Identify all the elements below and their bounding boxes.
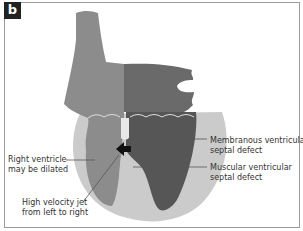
heart-diagram	[0, 0, 303, 231]
label-line: may be dilated	[8, 165, 68, 175]
label-muscular-defect: Muscular ventricular septal defect	[210, 163, 292, 182]
label-line: from left to right	[22, 208, 88, 218]
label-line: High velocity jet	[22, 198, 88, 208]
left-atrium	[124, 64, 194, 112]
membranous-defect	[121, 118, 129, 140]
label-membranous-defect: Membranous ventricular septal defect	[210, 136, 303, 155]
label-line: Muscular ventricular	[210, 163, 292, 173]
right-heart	[64, 11, 124, 206]
label-line: septal defect	[210, 146, 303, 156]
label-line: Right ventricle	[8, 155, 68, 165]
label-right-ventricle: Right ventricle may be dilated	[8, 155, 68, 174]
label-line: Membranous ventricular	[210, 136, 303, 146]
label-high-velocity-jet: High velocity jet from left to right	[22, 198, 88, 217]
label-line: septal defect	[210, 173, 292, 183]
